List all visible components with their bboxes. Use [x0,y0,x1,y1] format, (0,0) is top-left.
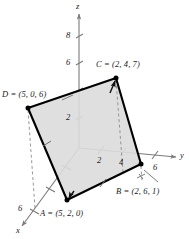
y-tick-label-4: 4 [119,158,123,167]
vertex-dot-C [114,76,119,81]
z-tick-label-6: 6 [66,58,70,67]
vertex-dot-B [139,162,144,167]
dashed-from-B [141,166,142,182]
figure-canvas [0,0,189,239]
point-label-B: B = (2, 6, 1) [116,187,159,196]
point-label-C: C = (2, 4, 7) [96,60,140,69]
x-tick-label-6: 6 [18,204,22,213]
z-tick-label-2: 2 [66,113,70,122]
point-label-A: A = (5, 2, 0) [40,209,83,218]
y-axis-label: y [180,151,184,160]
vertex-dot-D [26,106,31,111]
point-label-D: D = (5, 0, 6) [2,90,46,99]
x-axis-label: x [16,226,20,235]
b-cross-marks [137,174,145,179]
y-tick-label-2: 2 [97,156,101,165]
y-tick-label-6: 6 [153,163,157,172]
z-axis-label: z [76,2,79,11]
z-tick-label-8: 8 [66,31,70,40]
vertex-dot-A [65,198,70,203]
figure-root: z y x 8 6 2 2 4 6 6 C = (2, 4, 7) D = (5… [0,0,189,239]
